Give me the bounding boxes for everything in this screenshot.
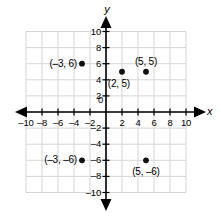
x-axis-tick-label: 4 <box>135 118 140 128</box>
y-axis-label: y <box>104 4 110 15</box>
x-axis-tick-label: –8 <box>37 118 47 128</box>
axis-lines <box>15 16 206 211</box>
y-axis-tick-label: –8 <box>91 171 101 181</box>
data-point-label: (5, 5) <box>135 57 157 67</box>
data-point-label: (–3, 6) <box>49 59 77 69</box>
x-axis-arrow-left-icon <box>15 107 27 118</box>
data-point <box>143 157 149 163</box>
data-point <box>79 61 85 67</box>
y-axis-tick-label: –6 <box>91 155 101 165</box>
data-point-label: (5, –6) <box>132 167 160 177</box>
x-axis-tick-label: 8 <box>167 118 172 128</box>
y-axis-tick-label: 4 <box>96 75 101 85</box>
coordinate-plane-graph: –10–8–6–4–2246810108642–2–4–6–8–10 (–3, … <box>0 0 221 220</box>
x-axis-tick-label: –10 <box>18 118 33 128</box>
data-point <box>119 69 125 75</box>
y-axis-tick-label: 10 <box>91 27 101 37</box>
y-axis-tick-label: –4 <box>91 139 101 149</box>
origin-tick-label: 0 <box>98 95 103 105</box>
x-axis-tick-label: 10 <box>181 118 191 128</box>
y-axis-arrow-up-icon <box>101 16 112 28</box>
x-axis-tick-label: 2 <box>119 118 124 128</box>
data-point <box>79 157 85 163</box>
x-axis-arrow-right-icon <box>194 107 206 118</box>
x-axis-tick-label: 6 <box>151 118 156 128</box>
y-axis-tick-label: –10 <box>86 188 101 198</box>
y-axis-tick-label: 6 <box>96 59 101 69</box>
y-axis-tick-label: –2 <box>91 123 101 133</box>
x-axis-tick-label: –4 <box>69 118 79 128</box>
x-axis-tick-label: –6 <box>53 118 63 128</box>
y-axis-arrow-down-icon <box>101 199 112 211</box>
data-point <box>143 69 149 75</box>
y-axis-tick-label: 8 <box>96 43 101 53</box>
data-point-label: (–3, –6) <box>44 155 77 165</box>
x-axis-label: x <box>207 106 213 117</box>
plot-area <box>0 0 221 220</box>
data-point-label: (2, 5) <box>108 79 130 89</box>
